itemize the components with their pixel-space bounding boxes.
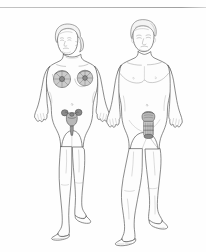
- figures-drawing: [0, 0, 206, 252]
- female-figure: [35, 24, 110, 240]
- male-arm-left: [107, 65, 121, 127]
- female-leg-right: [72, 147, 86, 218]
- female-leg-left: [58, 147, 72, 236]
- male-leg-right: [145, 149, 162, 224]
- mammary-gland-right: [77, 70, 93, 86]
- female-arm-right: [95, 66, 110, 121]
- female-arm-left: [35, 67, 50, 122]
- anatomical-figure-plate: Female and male human figures with repro…: [0, 0, 206, 252]
- male-arm-right: [168, 65, 182, 127]
- mammary-gland-left: [53, 70, 70, 87]
- male-figure: [107, 20, 182, 246]
- male-leg-left: [121, 149, 142, 242]
